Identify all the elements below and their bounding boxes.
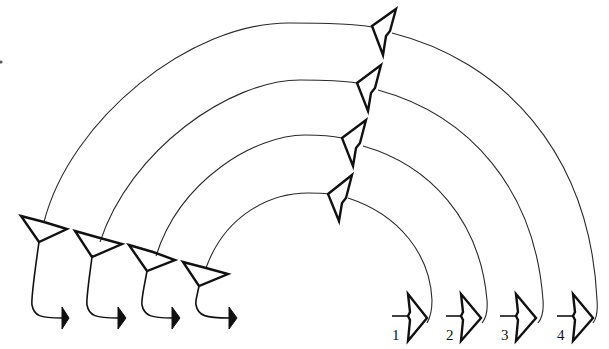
input-neuron-2 <box>75 231 126 329</box>
arc-inner-left <box>206 193 328 268</box>
output-neuron-4-body <box>573 294 593 341</box>
input-neuron-4-body <box>183 262 228 286</box>
relay-neurons <box>328 9 396 221</box>
input-neuron-4-arrow-icon <box>229 307 237 329</box>
relay-neuron-2 <box>357 65 381 111</box>
speck-mark <box>0 60 3 63</box>
output-neuron-2: 2 <box>446 294 481 343</box>
input-neuron-1-axon <box>32 242 62 318</box>
relay-neuron-outer <box>372 9 396 55</box>
input-neuron-2-arrow-icon <box>118 307 126 329</box>
output-neuron-4-label: 4 <box>557 327 565 343</box>
neuron-circuit-diagram: 1 2 3 4 <box>0 0 609 349</box>
input-neuron-3-body <box>129 245 175 271</box>
arc-outer-left <box>44 23 372 222</box>
output-neuron-2-body <box>461 294 481 341</box>
input-neuron-4 <box>183 262 237 329</box>
relay-neuron-3 <box>342 120 366 166</box>
input-neuron-3-arrow-icon <box>172 307 180 329</box>
output-neuron-1: 1 <box>392 294 427 343</box>
output-neuron-2-label: 2 <box>446 327 454 343</box>
arc-3-left <box>156 135 342 256</box>
output-neuron-4: 4 <box>557 294 593 343</box>
input-neuron-2-body <box>75 231 122 257</box>
input-neuron-3-axon <box>142 271 172 318</box>
input-neuron-3 <box>129 245 180 329</box>
input-neuron-4-axon <box>196 286 229 318</box>
output-neuron-1-label: 1 <box>392 327 400 343</box>
output-neuron-3-label: 3 <box>501 327 509 343</box>
arc-inner-right <box>348 198 432 323</box>
output-neuron-1-body <box>408 294 427 341</box>
arc-group-input-to-relay <box>44 23 372 268</box>
arc-group-relay-to-output <box>348 33 597 323</box>
arc-2-right <box>378 90 543 323</box>
output-neuron-3: 3 <box>500 294 536 343</box>
input-neuron-1 <box>21 216 69 329</box>
arc-outer-right <box>392 33 597 323</box>
output-neuron-3-body <box>516 294 536 341</box>
input-neuron-1-arrow-icon <box>62 307 69 329</box>
arc-3-right <box>363 146 487 323</box>
input-neuron-2-axon <box>87 257 118 318</box>
